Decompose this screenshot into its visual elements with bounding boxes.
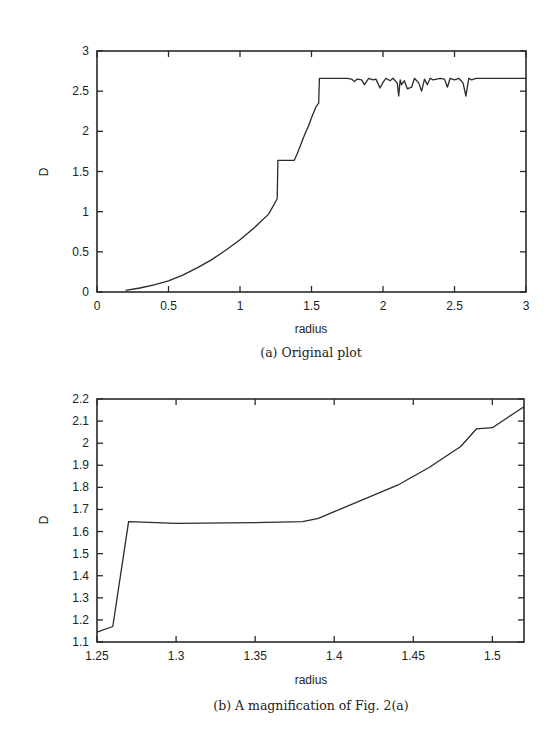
plot-b-x-tick-labels: 1.251.31.351.41.451.5 [85,649,501,663]
plot-b-y-tick-labels: 1.11.21.31.41.51.61.71.81.922.12.2 [72,392,89,649]
x-tick-label: 2 [380,299,387,313]
plot-b-x-axis-label: radius [295,673,328,687]
y-tick-label: 2.5 [72,84,89,98]
y-tick-label: 1.8 [72,480,89,494]
plot-a-frame [97,51,526,292]
plot-a-data-line [126,78,526,290]
y-tick-label: 1.4 [72,569,89,583]
plot-b-magnification: 1.11.21.31.41.51.61.71.81.922.12.2 1.251… [37,392,524,713]
plot-a-x-axis-label: radius [295,322,328,336]
figure: 00.511.522.53 00.511.522.53 D radius (a)… [0,0,556,746]
x-tick-label: 3 [523,299,530,313]
y-tick-label: 0.5 [72,245,89,259]
plot-a-y-axis-label: D [37,167,51,176]
y-tick-label: 1.6 [72,525,89,539]
y-tick-label: 1.7 [72,502,89,516]
x-tick-label: 1.25 [85,649,109,663]
x-tick-label: 0 [94,299,101,313]
plot-b-caption: (b) A magnification of Fig. 2(a) [213,698,408,713]
plot-a-ticks [97,51,526,292]
y-tick-label: 1.9 [72,458,89,472]
plot-b-y-axis-label: D [37,515,51,524]
y-tick-label: 2 [82,124,89,138]
x-tick-label: 1.5 [303,299,320,313]
plot-b-data-line [97,407,524,632]
x-tick-label: 1.4 [326,649,343,663]
x-tick-label: 1.45 [402,649,426,663]
plot-a-original: 00.511.522.53 00.511.522.53 D radius (a)… [37,44,530,360]
x-tick-label: 1.3 [168,649,185,663]
y-tick-label: 2 [82,436,89,450]
y-tick-label: 2.2 [72,392,89,406]
y-tick-label: 0 [82,285,89,299]
y-tick-label: 1.3 [72,591,89,605]
y-tick-label: 1.2 [72,613,89,627]
y-tick-label: 2.1 [72,414,89,428]
plot-a-y-tick-labels: 00.511.522.53 [72,44,89,299]
x-tick-label: 1.35 [243,649,267,663]
y-tick-label: 3 [82,44,89,58]
y-tick-label: 1.1 [72,635,89,649]
x-tick-label: 1.5 [484,649,501,663]
x-tick-label: 2.5 [446,299,463,313]
x-tick-label: 1 [237,299,244,313]
y-tick-label: 1 [82,205,89,219]
x-tick-label: 0.5 [160,299,177,313]
y-tick-label: 1.5 [72,165,89,179]
plot-a-x-tick-labels: 00.511.522.53 [94,299,530,313]
y-tick-label: 1.5 [72,547,89,561]
plot-a-caption: (a) Original plot [260,345,361,360]
